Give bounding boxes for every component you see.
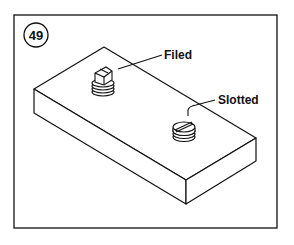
figure-number-badge: 49	[24, 23, 48, 47]
slotted-screw-icon	[173, 122, 195, 142]
slotted-label: Slotted	[218, 93, 259, 107]
filed-callout: Filed	[118, 48, 192, 69]
filed-label: Filed	[164, 48, 192, 62]
figure: 49	[0, 0, 294, 245]
figure-number: 49	[29, 28, 43, 43]
metal-block	[34, 47, 256, 204]
